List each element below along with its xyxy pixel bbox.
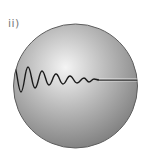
sphere-diagram bbox=[0, 0, 146, 152]
sphere bbox=[14, 24, 138, 148]
